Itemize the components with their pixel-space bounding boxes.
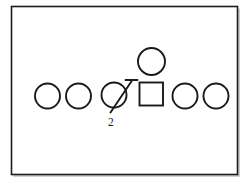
node-circle-sibling-2[interactable] xyxy=(66,84,91,109)
node-circle-spouse-above[interactable] xyxy=(138,48,165,75)
diagram-canvas: 2 xyxy=(0,0,248,185)
node-square-ego[interactable] xyxy=(140,83,164,106)
node-circle-sibling-4[interactable] xyxy=(173,84,198,109)
sibling-count-label: 2 xyxy=(108,116,114,128)
node-circle-sibling-5[interactable] xyxy=(204,84,229,109)
node-circle-sibling-1[interactable] xyxy=(35,84,60,109)
kinship-diagram-figure: 2 xyxy=(0,0,248,185)
